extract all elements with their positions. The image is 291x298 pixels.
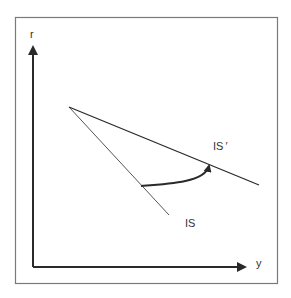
is-prime-label: IS ′ xyxy=(213,141,228,152)
y-axis-label: r xyxy=(30,29,34,40)
is-curve xyxy=(69,107,169,215)
shift-arrow xyxy=(141,166,209,186)
frame xyxy=(16,18,278,284)
is-label: IS xyxy=(185,218,195,229)
is-curve-diagram xyxy=(0,0,291,298)
x-axis-label: y xyxy=(256,258,262,269)
is-prime-curve xyxy=(69,107,259,185)
